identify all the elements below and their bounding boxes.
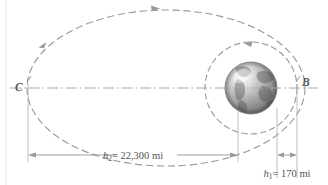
h1-arrow-right: [290, 153, 297, 158]
figure-canvas: C B h2= 22,300 mi h1= 170 mi: [0, 0, 328, 185]
orbit-diagram-figure: C B h2= 22,300 mi h1= 170 mi: [0, 0, 328, 185]
h2-label: h2= 22,300 mi: [103, 150, 163, 163]
h1-dimension: h1= 170 mi: [263, 153, 310, 182]
h2-dimension: h2= 22,300 mi: [28, 150, 238, 163]
h2-arrow-right: [230, 152, 238, 157]
h1-label: h1= 170 mi: [263, 168, 310, 181]
earth-sphere: [225, 62, 277, 114]
h2-arrow-left: [28, 152, 36, 157]
point-c-label: C: [15, 81, 23, 93]
h1-arrow-left: [277, 153, 284, 158]
transfer-orbit-arrow-left: [39, 42, 47, 48]
point-b-label: B: [301, 76, 310, 88]
